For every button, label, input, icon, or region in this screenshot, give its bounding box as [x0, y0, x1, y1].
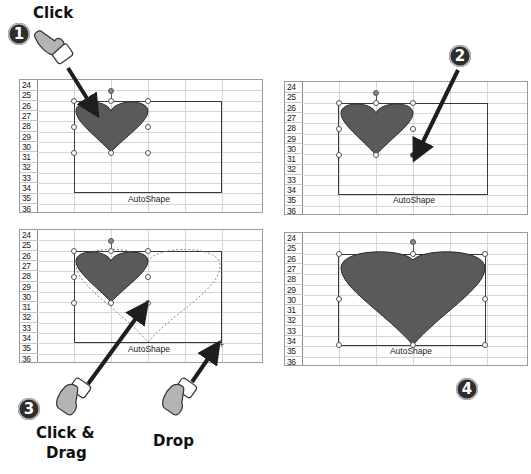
- step-badge-2: 2: [449, 45, 471, 67]
- resize-handle[interactable]: [145, 124, 151, 130]
- resize-handle[interactable]: [145, 150, 151, 156]
- resize-handle[interactable]: [482, 296, 488, 302]
- rotate-handle[interactable]: [108, 88, 114, 94]
- step-badge-1: 1: [8, 23, 30, 45]
- resize-handle[interactable]: [410, 342, 416, 348]
- resize-handle[interactable]: [336, 100, 342, 106]
- resize-handle[interactable]: [336, 342, 342, 348]
- resize-handle[interactable]: [71, 98, 77, 104]
- rotate-handle[interactable]: [373, 90, 379, 96]
- resize-handle[interactable]: [410, 126, 416, 132]
- heart-shape[interactable]: [285, 82, 528, 215]
- hand-pointer-icon: [158, 374, 197, 417]
- step-badge-3: 3: [18, 398, 40, 420]
- worksheet-panel-3: 24 25 26 27 28 29 30 31 32 33 34 35 36 A…: [19, 229, 263, 363]
- resize-handle[interactable]: [71, 150, 77, 156]
- resize-handle[interactable]: [145, 248, 151, 254]
- resize-handle[interactable]: [71, 274, 77, 280]
- step-1-label: Click: [33, 4, 73, 22]
- resize-handle[interactable]: [108, 150, 114, 156]
- step-badge-4: 4: [456, 378, 478, 400]
- worksheet-panel-2: 24 25 26 27 28 29 30 31 32 33 34 35 36 A…: [284, 81, 528, 215]
- resize-handle[interactable]: [373, 152, 379, 158]
- resize-handle[interactable]: [482, 342, 488, 348]
- resize-handle[interactable]: [482, 251, 488, 257]
- heart-shape[interactable]: [285, 233, 528, 366]
- resize-handle[interactable]: [145, 300, 151, 306]
- step-3-label-line2: Drag: [46, 444, 87, 462]
- resize-handle[interactable]: [336, 152, 342, 158]
- resize-handle[interactable]: [373, 100, 379, 106]
- resize-handle-corner[interactable]: [410, 152, 416, 158]
- resize-handle[interactable]: [108, 300, 114, 306]
- resize-handle[interactable]: [145, 274, 151, 280]
- worksheet-panel-1: 24 25 26 27 28 29 30 31 32 33 34 35 36 A…: [19, 79, 263, 213]
- resize-handle[interactable]: [145, 98, 151, 104]
- hand-pointer-icon: [52, 374, 91, 417]
- heart-shape[interactable]: [20, 80, 263, 213]
- resize-handle[interactable]: [71, 124, 77, 130]
- rotate-handle[interactable]: [108, 238, 114, 244]
- svg-text:+: +: [219, 340, 224, 350]
- resize-handle[interactable]: [336, 251, 342, 257]
- resize-handle[interactable]: [108, 98, 114, 104]
- step-3-label-line1: Click &: [36, 424, 94, 442]
- worksheet-panel-4: 24 25 26 27 28 29 30 31 32 33 34 35 36 A…: [284, 232, 528, 366]
- resize-handle[interactable]: [108, 248, 114, 254]
- resize-handle[interactable]: [71, 248, 77, 254]
- rotate-handle[interactable]: [410, 239, 416, 245]
- resize-handle[interactable]: [336, 296, 342, 302]
- heart-shape[interactable]: +: [20, 230, 263, 363]
- resize-handle[interactable]: [410, 251, 416, 257]
- resize-handle[interactable]: [336, 126, 342, 132]
- hand-pointer-icon: [33, 22, 74, 67]
- resize-handle[interactable]: [71, 300, 77, 306]
- drop-label: Drop: [153, 432, 194, 450]
- resize-handle[interactable]: [410, 100, 416, 106]
